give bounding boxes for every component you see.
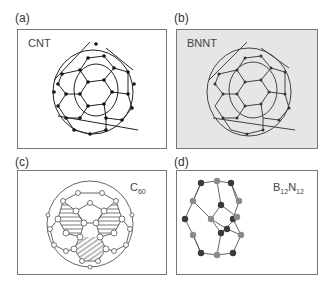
panel-a-cnt: CNT <box>17 29 167 149</box>
panel-b-bnnt: BNNT <box>176 29 318 149</box>
panel-c-c60: C60 <box>17 170 167 275</box>
bn-nanotube-icon <box>177 30 319 150</box>
panel-label-b: (b) <box>174 11 189 25</box>
panel-label-a: (a) <box>15 11 30 25</box>
b12n12-cage-icon <box>177 171 319 276</box>
panel-d-b12n12: B12N12 <box>176 170 318 275</box>
fullerene-icon <box>18 171 168 276</box>
nanotube-icon <box>18 30 168 150</box>
panel-label-d: (d) <box>174 155 189 169</box>
panel-label-c: (c) <box>15 155 29 169</box>
